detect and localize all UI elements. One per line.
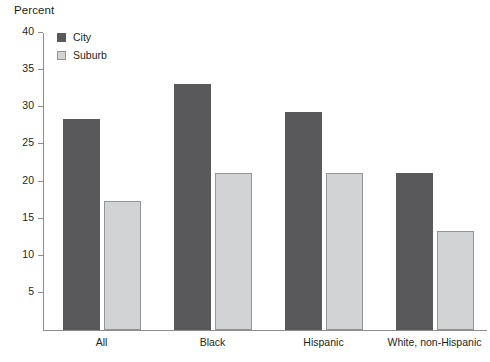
y-axis-title: Percent [14, 4, 54, 16]
x-axis-label-hispanic: Hispanic [303, 336, 343, 348]
y-tick-label-40: 40 [22, 25, 34, 37]
y-axis-line [43, 33, 44, 331]
legend-label-suburb: Suburb [73, 49, 107, 61]
bar-suburb-hispanic [326, 173, 363, 330]
bar-chart: Percent 403530252015105 City Suburb AllB… [0, 0, 490, 362]
bar-suburb-black [215, 173, 252, 330]
x-axis-label-all: All [96, 336, 108, 348]
legend-label-city: City [73, 31, 91, 43]
y-tick-20: 20 [38, 181, 43, 182]
y-tick-40: 40 [38, 32, 43, 33]
legend-swatch-suburb-icon [57, 51, 66, 60]
y-tick-30: 30 [38, 106, 43, 107]
bar-suburb-white-non-hispanic [437, 231, 474, 330]
y-tick-label-5: 5 [28, 285, 34, 297]
legend-item-city: City [57, 28, 107, 46]
y-tick-35: 35 [38, 69, 43, 70]
y-tick-label-35: 35 [22, 62, 34, 74]
y-tick-25: 25 [38, 143, 43, 144]
y-tick-label-10: 10 [22, 248, 34, 260]
legend-item-suburb: Suburb [57, 46, 107, 64]
x-axis-line [43, 330, 487, 331]
y-tick-15: 15 [38, 218, 43, 219]
y-tick-label-25: 25 [22, 136, 34, 148]
x-axis-label-white-non-hispanic: White, non-Hispanic [388, 336, 482, 348]
bar-city-black [174, 84, 211, 331]
bar-city-hispanic [285, 112, 322, 330]
bar-suburb-all [104, 201, 141, 330]
y-tick-5: 5 [38, 292, 43, 293]
y-tick-label-20: 20 [22, 174, 34, 186]
x-axis-label-black: Black [200, 336, 226, 348]
y-tick-label-15: 15 [22, 211, 34, 223]
plot-area: 403530252015105 [43, 33, 487, 330]
bar-city-white-non-hispanic [396, 173, 433, 330]
legend: City Suburb [57, 28, 107, 64]
bar-city-all [63, 119, 100, 330]
y-tick-label-30: 30 [22, 99, 34, 111]
y-tick-10: 10 [38, 255, 43, 256]
legend-swatch-city-icon [57, 33, 66, 42]
